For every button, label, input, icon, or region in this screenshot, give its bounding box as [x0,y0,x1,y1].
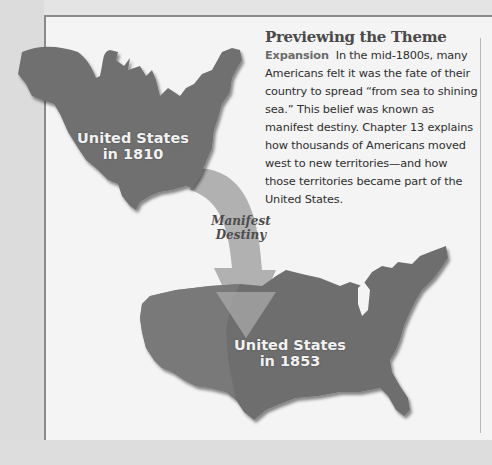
map-1853-label-line1: United States [225,337,355,353]
map-1810-label-line1: United States [68,130,198,146]
map-1810-label-line2: in 1810 [68,146,198,162]
theme-keyword: Expansion [265,49,329,62]
map-label-1853: United States in 1853 [225,337,355,369]
arrow-label-line1: Manifest [206,214,276,228]
manifest-destiny-label: Manifest Destiny [206,214,276,242]
map-united-states-1853 [140,246,448,420]
previewing-theme-section: Previewing the Theme Expansion In the mi… [265,28,480,209]
arrow-label-line2: Destiny [206,228,276,242]
map-1853-label-line2: in 1853 [225,353,355,369]
section-heading: Previewing the Theme [265,28,480,46]
section-body: Expansion In the mid-1800s, many America… [265,47,480,209]
map-label-1810: United States in 1810 [68,130,198,162]
theme-body-text: In the mid-1800s, many Americans felt it… [265,49,478,206]
